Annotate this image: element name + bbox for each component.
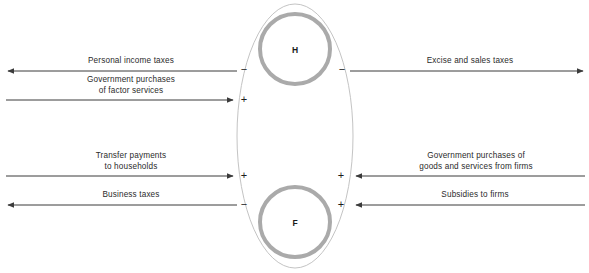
diagram-canvas [0,0,589,273]
sign-personal-income-taxes: − [239,64,249,75]
flow-label-transfer-payments-households: Transfer payments to households [76,151,186,172]
sign-transfer-payments-households: + [239,170,249,181]
sign-business-taxes: − [239,199,249,210]
sign-government-purchases-goods-services: + [336,170,346,181]
firms-node-label: F [285,218,305,228]
flow-label-government-purchases-factor-services: Government purchases of factor services [66,75,196,96]
circular-flow-diagram: H F Personal income taxes Government pur… [0,0,589,273]
flow-label-business-taxes: Business taxes [86,190,176,201]
sign-government-purchases-factor-services: + [239,94,249,105]
sign-subsidies-to-firms: + [336,199,346,210]
households-node-label: H [285,45,305,55]
flow-label-subsidies-to-firms: Subsidies to firms [420,190,530,201]
sign-excise-and-sales-taxes: − [337,64,347,75]
flow-label-excise-and-sales-taxes: Excise and sales taxes [410,56,530,67]
flow-label-government-purchases-goods-services: Government purchases of goods and servic… [402,151,550,172]
flow-label-personal-income-taxes: Personal income taxes [76,56,186,67]
